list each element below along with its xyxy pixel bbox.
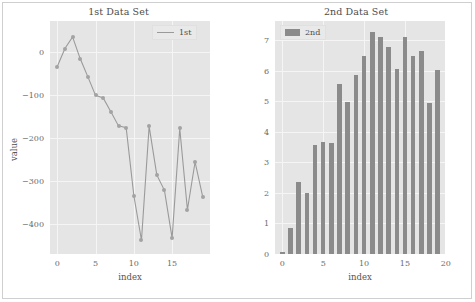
data-point-marker	[78, 57, 82, 61]
data-point-marker	[117, 124, 121, 128]
bar	[386, 47, 391, 254]
line-series-1st	[50, 21, 210, 254]
data-point-marker	[155, 173, 159, 177]
data-point-marker	[132, 194, 136, 198]
data-point-marker	[63, 47, 67, 51]
bar	[411, 56, 416, 254]
data-point-marker	[162, 188, 166, 192]
y-tick-label: −100	[0, 90, 44, 99]
figure-canvas: 1st Data Set 0−100−200−300−400 051015 in…	[0, 0, 475, 302]
legend-line-swatch-icon	[157, 32, 174, 33]
data-point-marker	[55, 65, 59, 69]
bar	[435, 70, 440, 254]
y-axis-label-left: value	[9, 138, 19, 161]
y-tick-label: 3	[237, 158, 269, 167]
bar	[403, 37, 408, 254]
x-tick-label: 15	[167, 259, 177, 268]
data-point-marker	[94, 93, 98, 97]
y-tick-label: 4	[237, 127, 269, 136]
data-point-marker	[178, 126, 182, 130]
data-point-marker	[86, 75, 90, 79]
bar	[280, 252, 285, 254]
x-axis-label-right: index	[348, 272, 371, 282]
plot-area-right	[275, 21, 445, 254]
bar	[370, 32, 375, 254]
bar	[321, 142, 326, 254]
bar	[296, 182, 301, 254]
x-tick-label: 10	[359, 259, 369, 268]
y-tick-label: 2	[237, 188, 269, 197]
legend-left[interactable]: 1st	[152, 25, 197, 40]
data-point-marker	[170, 236, 174, 240]
bar	[337, 84, 342, 254]
data-point-marker	[147, 124, 151, 128]
legend-label-1st: 1st	[179, 28, 191, 37]
y-tick-label: −200	[0, 133, 44, 142]
x-axis-label-left: index	[118, 272, 141, 282]
x-tick-label: 10	[129, 259, 139, 268]
data-point-marker	[71, 35, 75, 39]
data-point-marker	[124, 126, 128, 130]
data-point-marker	[101, 96, 105, 100]
chart-title-left: 1st Data Set	[0, 6, 237, 17]
chart-panel-2nd-data-set: 2nd Data Set 01234567 05101520 index 2nd	[237, 0, 475, 302]
bar	[354, 75, 359, 254]
x-tick-label: 20	[441, 259, 451, 268]
y-tick-label: 7	[237, 35, 269, 44]
bar	[395, 69, 400, 254]
y-tick-label: 0	[0, 47, 44, 56]
bar	[345, 102, 350, 254]
data-point-marker	[201, 195, 205, 199]
bar	[378, 37, 383, 254]
data-point-marker	[109, 110, 113, 114]
plot-area-left	[50, 21, 210, 254]
gridline-vertical	[282, 21, 283, 254]
y-tick-label: 5	[237, 97, 269, 106]
x-tick-label: 0	[280, 259, 285, 268]
y-tick-label: 1	[237, 219, 269, 228]
bar	[427, 103, 432, 254]
bar	[305, 193, 310, 254]
bar	[419, 51, 424, 254]
data-point-marker	[139, 238, 143, 242]
bar	[362, 56, 367, 254]
legend-right[interactable]: 2nd	[280, 25, 326, 40]
x-tick-label: 5	[321, 259, 326, 268]
legend-bar-swatch-icon	[285, 29, 300, 36]
chart-title-right: 2nd Data Set	[237, 6, 475, 17]
bar	[329, 143, 334, 254]
y-tick-label: 0	[237, 250, 269, 259]
x-tick-label: 15	[400, 259, 410, 268]
data-point-marker	[193, 160, 197, 164]
legend-label-2nd: 2nd	[305, 28, 320, 37]
x-tick-label: 0	[55, 259, 60, 268]
x-tick-label: 5	[93, 259, 98, 268]
y-tick-label: −400	[0, 219, 44, 228]
gridline-horizontal	[275, 40, 445, 41]
data-point-marker	[185, 208, 189, 212]
bar	[288, 228, 293, 254]
bar	[313, 145, 318, 254]
chart-panel-1st-data-set: 1st Data Set 0−100−200−300−400 051015 in…	[0, 0, 237, 302]
y-tick-label: 6	[237, 66, 269, 75]
y-tick-label: −300	[0, 176, 44, 185]
